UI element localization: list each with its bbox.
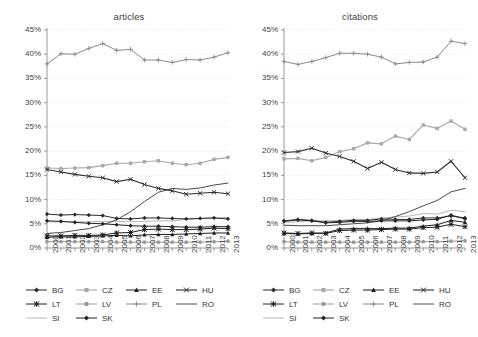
legend-item-cz[interactable]: CZ (74, 283, 124, 297)
x-axis-tick-label: 2013 (469, 235, 478, 253)
y-axis-tick-label: 0% (252, 243, 278, 252)
y-axis-tick-label: 5% (252, 219, 278, 228)
legend-label: CZ (336, 286, 350, 295)
legend-item-cz[interactable]: CZ (311, 283, 361, 297)
legend-swatch-ee-icon (124, 284, 149, 296)
legend-label: SK (336, 314, 350, 323)
y-axis-tick-label: 5% (15, 219, 41, 228)
x-axis-tick-label: 2000 (51, 235, 60, 253)
legend-label: EE (386, 286, 400, 295)
legend-label: RO (199, 300, 214, 309)
x-axis-tick-label: 2008 (162, 235, 171, 253)
legend-swatch-sk-icon (311, 312, 336, 324)
legend-item-hu[interactable]: HU (411, 283, 461, 297)
legend-item-pl[interactable]: PL (124, 297, 174, 311)
legend-label: BG (49, 286, 64, 295)
legend-swatch-lv-icon (311, 298, 336, 310)
y-axis-tick-label: 40% (252, 49, 278, 58)
y-axis-tick-label: 45% (252, 25, 278, 34)
series-line-bg (45, 212, 230, 221)
x-axis-tick-label: 2000 (288, 235, 297, 253)
y-axis-tick-label: 30% (252, 98, 278, 107)
series-line-pl (282, 39, 468, 67)
legend-swatch-sk-icon (74, 312, 99, 324)
legend-item-si[interactable]: SI (24, 311, 74, 325)
x-axis-tick-label: 2003 (92, 235, 101, 253)
legend-swatch-lt-icon (261, 298, 286, 310)
legend-label: SK (99, 314, 113, 323)
x-axis-tick-label: 2001 (301, 235, 310, 253)
legend-item-hu[interactable]: HU (174, 283, 224, 297)
legend-item-ro[interactable]: RO (174, 297, 224, 311)
legend-item-sk[interactable]: SK (311, 311, 361, 325)
x-axis-tick-label: 2010 (427, 235, 436, 253)
legend-swatch-ro-icon (174, 298, 199, 310)
x-axis-tick-label: 2001 (64, 235, 73, 253)
legend-row: SISK (0, 311, 236, 325)
legend-item-bg[interactable]: BG (261, 283, 311, 297)
y-axis-tick-label: 15% (252, 170, 278, 179)
x-axis-tick-label: 2011 (204, 236, 213, 253)
series-line-hu (45, 167, 230, 196)
legend-row: LTLVPLRO (0, 297, 236, 311)
legend-row: LTLVPLRO (237, 297, 473, 311)
x-axis-tick-label: 2010 (190, 235, 199, 253)
legend-swatch-hu-icon (411, 284, 436, 296)
legend-swatch-si-icon (261, 312, 286, 324)
legend-item-lt[interactable]: LT (261, 297, 311, 311)
series-line-cz (282, 119, 466, 162)
legend-item-si[interactable]: SI (261, 311, 311, 325)
x-axis-tick-label: 2012 (455, 235, 464, 253)
legend-item-ee[interactable]: EE (124, 283, 174, 297)
legend-swatch-cz-icon (74, 284, 99, 296)
y-axis-tick-label: 25% (15, 122, 41, 131)
x-axis-tick-label: 2004 (343, 235, 352, 253)
legend-swatch-pl-icon (361, 298, 386, 310)
x-axis-tick-label: 2005 (357, 235, 366, 253)
legend-swatch-pl-icon (124, 298, 149, 310)
y-axis-tick-label: 0% (15, 243, 41, 252)
legend-item-lt[interactable]: LT (24, 297, 74, 311)
x-axis-tick-label: 2009 (176, 235, 185, 253)
y-axis-tick-label: 10% (252, 195, 278, 204)
legend-item-bg[interactable]: BG (24, 283, 74, 297)
legend-swatch-si-icon (24, 312, 49, 324)
legend-swatch-ro-icon (411, 298, 436, 310)
legend-articles: BGCZEEHULTLVPLROSISK (0, 283, 236, 325)
legend-label: SI (286, 314, 297, 323)
x-axis-tick-label: 2005 (120, 235, 129, 253)
y-axis-tick-label: 35% (252, 73, 278, 82)
x-axis-tick-label: 2006 (134, 235, 143, 253)
legend-label: CZ (99, 286, 113, 295)
legend-row: SISK (237, 311, 473, 325)
legend-swatch-lt-icon (24, 298, 49, 310)
legend-label: RO (436, 300, 451, 309)
legend-item-sk[interactable]: SK (74, 311, 124, 325)
legend-swatch-bg-icon (24, 284, 49, 296)
legend-item-pl[interactable]: PL (361, 297, 411, 311)
y-axis-tick-label: 20% (15, 146, 41, 155)
legend-item-ro[interactable]: RO (411, 297, 461, 311)
legend-swatch-bg-icon (261, 284, 286, 296)
x-axis-tick-label: 2011 (441, 236, 450, 253)
legend-item-lv[interactable]: LV (74, 297, 124, 311)
series-line-pl (45, 41, 231, 66)
x-axis-tick-label: 2007 (148, 235, 157, 253)
y-axis-tick-label: 25% (252, 122, 278, 131)
y-axis-tick-label: 40% (15, 49, 41, 58)
x-axis-tick-label: 2002 (315, 235, 324, 253)
y-axis-tick-label: 10% (15, 195, 41, 204)
y-axis-tick-label: 35% (15, 73, 41, 82)
x-axis-tick-label: 2012 (218, 235, 227, 253)
legend-row: BGCZEEHU (237, 283, 473, 297)
legend-label: HU (199, 286, 214, 295)
legend-swatch-cz-icon (311, 284, 336, 296)
legend-item-ee[interactable]: EE (361, 283, 411, 297)
x-axis-tick-label: 2006 (371, 235, 380, 253)
x-axis-tick-label: 2009 (413, 235, 422, 253)
legend-label: LT (286, 300, 298, 309)
x-axis-tick-label: 2007 (385, 235, 394, 253)
legend-item-lv[interactable]: LV (311, 297, 361, 311)
legend-swatch-lv-icon (74, 298, 99, 310)
